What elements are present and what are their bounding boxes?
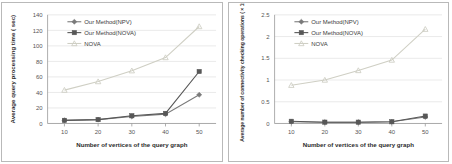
y-axis-tick-label: 0 [39, 121, 43, 127]
right-plot-area: 00.511.522.51020304050Number of vertices… [239, 3, 442, 148]
data-point-marker [197, 69, 201, 73]
x-axis-title: Number of vertices of the query graph [303, 141, 414, 148]
y-axis-title: Average number of connectivity checking … [239, 3, 245, 142]
x-axis-tick-label: 10 [288, 129, 295, 135]
y-axis-tick-label: 100 [33, 43, 44, 49]
x-axis-tick-label: 20 [95, 129, 102, 135]
legend-label: Our Method(NPV) [84, 19, 132, 25]
y-axis-tick-label: 0 [266, 121, 270, 127]
data-point-marker [423, 114, 427, 118]
data-point-marker [163, 111, 167, 115]
y-axis-tick-label: 0.5 [261, 99, 270, 105]
y-axis-tick-label: 60 [36, 74, 43, 80]
series-line-2 [291, 29, 425, 85]
data-point-marker [390, 120, 394, 124]
left-plot-area: 0204060801001201401020304050Number of ve… [9, 12, 216, 148]
y-axis-tick-label: 140 [33, 12, 44, 18]
data-point-marker [356, 120, 360, 124]
series-line-2 [64, 26, 199, 90]
y-axis-title: Average query processing time ( sec) [9, 15, 16, 124]
x-axis-title: Number of vertices of the query graph [76, 141, 187, 148]
y-axis-tick-label: 20 [36, 105, 43, 111]
figure-container: 0204060801001201401020304050Number of ve… [0, 0, 452, 164]
x-axis-tick-label: 50 [422, 129, 429, 135]
x-axis-tick-label: 10 [61, 129, 68, 135]
legend-marker-icon [299, 19, 304, 24]
data-point-marker [96, 117, 100, 121]
legend-label: Our Method(NOVA) [311, 30, 363, 36]
legend-marker-icon [72, 30, 76, 34]
data-point-marker [323, 120, 327, 124]
chart-panel-right: 00.511.522.51020304050Number of vertices… [228, 2, 449, 162]
legend-marker-icon [72, 19, 77, 24]
data-point-marker [62, 118, 66, 122]
y-axis-tick-label: 2 [266, 34, 269, 40]
left-chart-svg: 0204060801001201401020304050Number of ve… [2, 3, 222, 161]
data-point-marker [197, 24, 202, 29]
legend-label: Our Method(NPV) [311, 19, 359, 25]
y-axis-tick-label: 1 [266, 77, 269, 83]
right-chart-svg: 00.511.522.51020304050Number of vertices… [229, 3, 448, 161]
x-axis-tick-label: 20 [322, 129, 329, 135]
legend-marker-icon [299, 30, 303, 34]
y-axis-tick-label: 1.5 [261, 55, 270, 61]
legend-label: NOVA [311, 41, 327, 47]
x-axis-tick-label: 40 [162, 129, 169, 135]
legend-label: Our Method(NOVA) [84, 30, 136, 36]
y-axis-tick-label: 2.5 [261, 12, 270, 18]
x-axis-tick-label: 40 [389, 129, 396, 135]
y-axis-tick-label: 40 [36, 90, 43, 96]
chart-panel-left: 0204060801001201401020304050Number of ve… [1, 2, 223, 162]
y-axis-tick-label: 80 [36, 59, 43, 65]
x-axis-tick-label: 30 [355, 129, 362, 135]
series-line-1 [64, 71, 199, 120]
y-axis-tick-label: 120 [33, 28, 44, 34]
x-axis-tick-label: 30 [129, 129, 136, 135]
data-point-marker [197, 92, 202, 97]
data-point-marker [289, 119, 293, 123]
x-axis-tick-label: 50 [196, 129, 203, 135]
data-point-marker [130, 114, 134, 118]
legend-label: NOVA [84, 41, 100, 47]
data-point-marker [423, 27, 428, 32]
